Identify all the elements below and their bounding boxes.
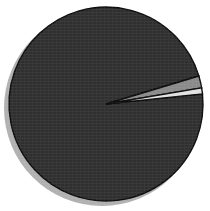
pie-chart-canvas — [0, 0, 210, 211]
pie-svg — [0, 0, 210, 211]
pie-chart-figure — [0, 0, 210, 211]
pie-slices-group — [9, 7, 203, 201]
